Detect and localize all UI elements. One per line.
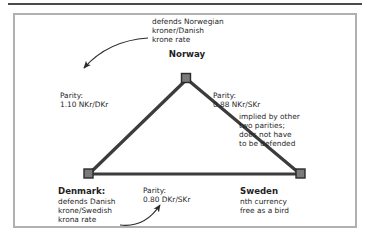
edge-label-norway-sweden-parity: Parity: 0.88 NKr/SKr — [213, 91, 260, 109]
figure-stage: defends Norwegian kroner/Danish krone ra… — [0, 0, 370, 245]
node-label-denmark: Denmark: — [58, 186, 105, 196]
annotation-implied-parity-note: implied by other two parities; does not … — [239, 112, 300, 148]
node-label-norway: Norway — [152, 49, 222, 59]
edge-label-denmark-sweden-parity: Parity: 0.80 DKr/SKr — [143, 186, 190, 204]
annotation-norway-defends: defends Norwegian kroner/Danish krone ra… — [152, 17, 224, 44]
top-divider-rule — [8, 3, 362, 5]
edge-label-norway-denmark-parity: Parity: 1.10 NKr/DKr — [60, 91, 108, 109]
node-label-sweden: Sweden — [240, 186, 278, 196]
annotation-denmark-defends: defends Danish krone/Swedish krona rate — [58, 197, 115, 224]
annotation-sweden-note: nth currency free as a bird — [240, 197, 289, 215]
